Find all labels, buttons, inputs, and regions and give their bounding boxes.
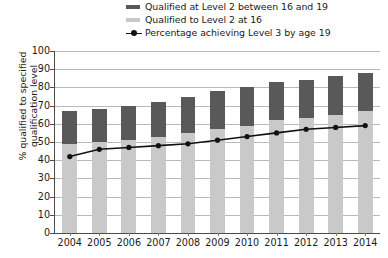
- x-tick-mark-2005: [99, 233, 100, 236]
- line-series-group: [55, 51, 380, 233]
- x-tick-mark-2013: [336, 233, 337, 236]
- x-tick-label-2008: 2008: [173, 237, 203, 248]
- chart-container: Qualified at Level 2 between 16 and 19 Q…: [0, 0, 388, 258]
- y-tick-mark-80: [50, 87, 54, 88]
- y-tick-40: 40: [20, 155, 50, 165]
- legend-swatch-line-marker-icon: [126, 27, 145, 39]
- y-tick-mark-50: [50, 142, 54, 143]
- x-tick-mark-2009: [218, 233, 219, 236]
- y-tick-label-90: 90: [24, 64, 50, 74]
- y-tick-label-60: 60: [24, 119, 50, 129]
- x-tick-mark-2008: [188, 233, 189, 236]
- y-tick-20: 20: [20, 192, 50, 202]
- line-marker-2007: [156, 143, 161, 148]
- plot-area: [55, 51, 380, 233]
- y-tick-50: 50: [20, 137, 50, 147]
- y-tick-label-0: 0: [24, 228, 50, 238]
- x-tick-label-2012: 2012: [291, 237, 321, 248]
- x-tick-label-2011: 2011: [262, 237, 292, 248]
- line-marker-2004: [67, 154, 72, 159]
- x-tick-label-2009: 2009: [203, 237, 233, 248]
- legend-label-qualified-level2-16-to-19: Qualified at Level 2 between 16 and 19: [145, 1, 328, 13]
- x-tick-label-2013: 2013: [321, 237, 351, 248]
- x-tick-mark-2010: [247, 233, 248, 236]
- x-tick-label-2005: 2005: [85, 237, 115, 248]
- legend-item-percentage-level3-by-19: Percentage achieving Level 3 by age 19: [126, 27, 376, 39]
- y-tick-label-80: 80: [24, 82, 50, 92]
- line-marker-2006: [126, 145, 131, 150]
- x-tick-mark-2014: [365, 233, 366, 236]
- y-tick-mark-100: [50, 51, 54, 52]
- y-tick-label-70: 70: [24, 101, 50, 111]
- y-tick-100: 100: [20, 46, 50, 56]
- x-tick-label-2004: 2004: [55, 237, 85, 248]
- x-tick-label-2007: 2007: [144, 237, 174, 248]
- legend-swatch-light-icon: [126, 14, 145, 26]
- legend-label-qualified-level2-at-16: Qualified to Level 2 at 16: [145, 14, 262, 26]
- y-tick-10: 10: [20, 210, 50, 220]
- line-marker-2012: [304, 127, 309, 132]
- y-tick-label-50: 50: [24, 137, 50, 147]
- y-tick-80: 80: [20, 82, 50, 92]
- line-marker-2010: [244, 134, 249, 139]
- y-tick-mark-40: [50, 160, 54, 161]
- y-tick-70: 70: [20, 101, 50, 111]
- x-tick-label-2010: 2010: [232, 237, 262, 248]
- chart-legend: Qualified at Level 2 between 16 and 19 Q…: [126, 1, 376, 40]
- y-tick-mark-10: [50, 215, 54, 216]
- y-tick-60: 60: [20, 119, 50, 129]
- legend-label-percentage-level3-by-19: Percentage achieving Level 3 by age 19: [145, 27, 331, 39]
- y-tick-label-20: 20: [24, 192, 50, 202]
- y-tick-mark-0: [50, 233, 54, 234]
- x-tick-mark-2012: [306, 233, 307, 236]
- y-tick-label-10: 10: [24, 210, 50, 220]
- x-tick-mark-2006: [129, 233, 130, 236]
- line-marker-2013: [333, 125, 338, 130]
- y-tick-label-100: 100: [24, 46, 50, 56]
- y-tick-mark-60: [50, 124, 54, 125]
- line-marker-2008: [185, 141, 190, 146]
- y-tick-mark-90: [50, 69, 54, 70]
- y-tick-0: 0: [20, 228, 50, 238]
- line-marker-2011: [274, 130, 279, 135]
- y-tick-mark-20: [50, 197, 54, 198]
- line-marker-2014: [363, 123, 368, 128]
- y-tick-label-40: 40: [24, 155, 50, 165]
- x-tick-label-2014: 2014: [350, 237, 380, 248]
- legend-item-qualified-level2-16-to-19: Qualified at Level 2 between 16 and 19: [126, 1, 376, 13]
- line-marker-2009: [215, 138, 220, 143]
- x-tick-mark-2004: [70, 233, 71, 236]
- legend-item-qualified-level2-at-16: Qualified to Level 2 at 16: [126, 14, 376, 26]
- y-tick-label-30: 30: [24, 173, 50, 183]
- line-marker-2005: [97, 147, 102, 152]
- x-tick-mark-2007: [158, 233, 159, 236]
- x-tick-mark-2011: [277, 233, 278, 236]
- y-tick-90: 90: [20, 64, 50, 74]
- legend-swatch-dark-icon: [126, 1, 145, 13]
- y-tick-30: 30: [20, 173, 50, 183]
- y-tick-mark-30: [50, 178, 54, 179]
- x-tick-label-2006: 2006: [114, 237, 144, 248]
- y-tick-mark-70: [50, 106, 54, 107]
